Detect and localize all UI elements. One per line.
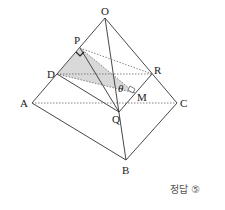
segment-QR bbox=[119, 74, 152, 112]
label-R: R bbox=[154, 64, 162, 76]
label-B: B bbox=[122, 164, 129, 176]
label-P: P bbox=[74, 34, 80, 46]
label-M: M bbox=[137, 91, 147, 103]
edge-AB bbox=[32, 103, 126, 160]
label-O: O bbox=[101, 5, 109, 17]
answer-text: 정답 ⑤ bbox=[170, 184, 200, 195]
label-D: D bbox=[47, 68, 55, 80]
angle-theta-label: θ bbox=[118, 82, 124, 94]
label-C: C bbox=[180, 97, 187, 109]
label-Q: Q bbox=[112, 113, 120, 125]
edge-CB bbox=[126, 103, 177, 160]
label-A: A bbox=[20, 97, 28, 109]
tetrahedron-diagram: θ O P D R A C M Q B 정답 ⑤ bbox=[0, 0, 225, 210]
